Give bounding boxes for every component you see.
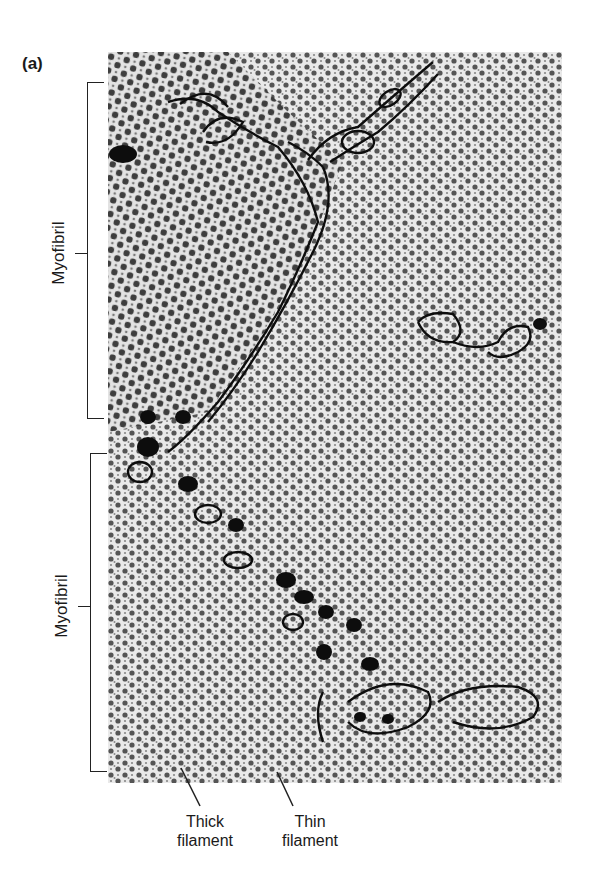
callout-leader-lines [0, 0, 591, 891]
thin-filament-label: Thin filament [265, 812, 355, 850]
thin-filament-label-line1: Thin [265, 812, 355, 831]
thick-filament-label-line1: Thick [160, 812, 250, 831]
thick-filament-label: Thick filament [160, 812, 250, 850]
thin-filament-label-line2: filament [265, 831, 355, 850]
thick-filament-label-line2: filament [160, 831, 250, 850]
